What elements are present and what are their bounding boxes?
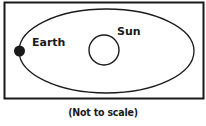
sun-label: Sun <box>117 25 141 38</box>
earth-label: Earth <box>32 36 65 49</box>
sun-circle <box>89 35 119 65</box>
earth-dot <box>14 46 25 57</box>
scale-caption: (Not to scale) <box>0 106 206 118</box>
diagram-frame <box>5 3 204 99</box>
orbit-ellipse <box>19 9 194 93</box>
